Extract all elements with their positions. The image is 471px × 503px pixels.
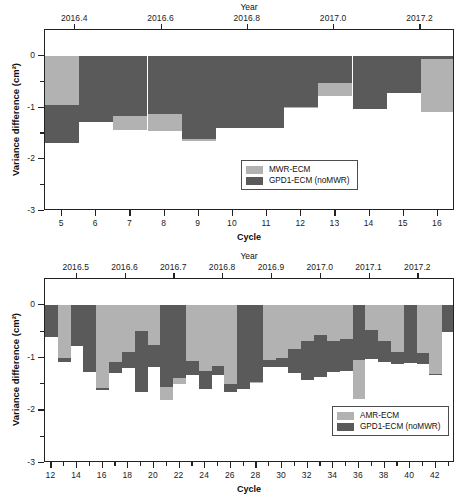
y-axis-title-top: Variance difference (cm²) xyxy=(10,29,21,210)
figure-root: 0-1-2-356789101112131415162016.42016.620… xyxy=(0,0,471,503)
year-tick xyxy=(76,273,77,278)
x-tick-major xyxy=(358,462,359,468)
bar-segment xyxy=(109,305,122,362)
y-tick-major xyxy=(38,158,44,159)
y-tick-major xyxy=(38,409,44,410)
x-tick-minor xyxy=(217,462,218,466)
x-tick-label: 9 xyxy=(183,218,213,228)
bar-segment xyxy=(199,305,212,371)
year-tick-label: 2017.2 xyxy=(392,262,442,272)
year-tick xyxy=(271,273,272,278)
bar-segment xyxy=(148,305,161,345)
legend-swatch-light xyxy=(337,412,354,420)
year-tick xyxy=(125,273,126,278)
bar-segment xyxy=(421,56,453,112)
bar-segment xyxy=(301,305,314,341)
x-tick-minor xyxy=(166,462,167,466)
y-tick-major xyxy=(38,55,44,56)
year-tick xyxy=(419,24,420,29)
year-tick xyxy=(369,273,370,278)
bar-segment xyxy=(96,305,109,388)
x-tick-label: 14 xyxy=(354,218,384,228)
x-tick-label: 5 xyxy=(46,218,76,228)
x-tick-label: 11 xyxy=(251,218,281,228)
legend-swatch-dark xyxy=(246,177,263,185)
x-tick-major xyxy=(437,210,438,216)
year-tick-label: 2016.7 xyxy=(148,262,198,272)
year-tick-label: 2016.8 xyxy=(197,262,247,272)
x-tick-major xyxy=(164,210,165,216)
x-tick-label: 7 xyxy=(114,218,144,228)
bar-segment xyxy=(353,56,387,109)
x-tick-minor xyxy=(191,462,192,466)
bar-segment xyxy=(216,56,250,128)
x-tick-label: 13 xyxy=(319,218,349,228)
year-tick xyxy=(320,273,321,278)
bar-segment xyxy=(421,56,453,60)
year-tick xyxy=(247,24,248,29)
bar-segment xyxy=(365,305,378,330)
bar-segment xyxy=(417,305,430,352)
chart-panel-bottom: 0-1-2-3121416182022242628303234363840422… xyxy=(0,250,471,503)
x-axis-title-bottom: Cycle xyxy=(44,484,454,494)
year-tick xyxy=(333,24,334,29)
x-tick-label: 42 xyxy=(420,470,450,480)
legend-bottom: AMR-ECMGPD1-ECM (noMWR) xyxy=(332,406,449,436)
y-tick-major xyxy=(38,462,44,463)
bar-segment xyxy=(378,305,391,340)
year-tick xyxy=(173,273,174,278)
x-tick-major xyxy=(50,462,51,468)
y-tick-minor xyxy=(40,132,44,133)
legend-swatch-dark xyxy=(337,423,354,431)
bar-segment xyxy=(318,56,352,83)
y-tick-major xyxy=(38,107,44,108)
bar-segment xyxy=(340,305,353,339)
bar-segment xyxy=(135,305,148,331)
bar-segment xyxy=(284,56,318,107)
legend-swatch-light xyxy=(246,166,263,174)
legend-label: MWR-ECM xyxy=(269,165,310,174)
x-tick-major xyxy=(266,210,267,216)
x-tick-major xyxy=(179,462,180,468)
x-tick-minor xyxy=(268,462,269,466)
bar-segment xyxy=(45,56,79,105)
year-tick xyxy=(161,24,162,29)
x-tick-minor xyxy=(294,462,295,466)
bar-segment xyxy=(148,56,182,114)
bar-segment xyxy=(327,305,340,340)
bar-segment xyxy=(276,305,289,358)
year-tick-label: 2016.4 xyxy=(49,13,99,23)
bar-segment xyxy=(224,305,237,384)
bar-segment xyxy=(71,305,84,346)
x-tick-major xyxy=(61,210,62,216)
bar-segment xyxy=(79,56,113,122)
y-tick-major xyxy=(38,304,44,305)
bar-segment xyxy=(182,56,216,139)
x-axis-title-top: Cycle xyxy=(44,232,454,242)
bar-segment xyxy=(45,305,58,337)
x-tick-minor xyxy=(63,462,64,466)
x-tick-major xyxy=(281,462,282,468)
y-tick-minor xyxy=(40,436,44,437)
x-tick-minor xyxy=(396,462,397,466)
x-tick-major xyxy=(198,210,199,216)
y-tick-minor xyxy=(40,184,44,185)
x-tick-label: 8 xyxy=(149,218,179,228)
x-tick-major xyxy=(369,210,370,216)
year-tick xyxy=(74,24,75,29)
year-tick-label: 2016.6 xyxy=(136,13,186,23)
bar-segment xyxy=(113,56,147,117)
x-tick-label: 6 xyxy=(80,218,110,228)
x-tick-minor xyxy=(319,462,320,466)
x-tick-major xyxy=(409,462,410,468)
y-tick-minor xyxy=(40,383,44,384)
chart-panel-top: 0-1-2-356789101112131415162016.42016.620… xyxy=(0,0,471,250)
x-tick-major xyxy=(102,462,103,468)
x-tick-minor xyxy=(422,462,423,466)
bar-segment xyxy=(442,305,453,331)
x-tick-major xyxy=(334,210,335,216)
y-tick-minor xyxy=(40,331,44,332)
x-tick-major xyxy=(332,462,333,468)
x-tick-minor xyxy=(345,462,346,466)
bar-segment xyxy=(173,305,186,378)
